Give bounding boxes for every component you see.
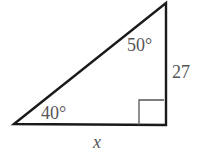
right-triangle-shape bbox=[14, 3, 166, 125]
side-label-horizontal: x bbox=[92, 132, 101, 152]
side-label-vertical: 27 bbox=[172, 62, 190, 82]
angle-label-bottom-left: 40° bbox=[41, 103, 66, 123]
triangle-diagram: 50° 27 40° x bbox=[0, 0, 204, 158]
triangle-svg: 50° 27 40° x bbox=[0, 0, 204, 158]
right-angle-marker-icon bbox=[139, 100, 164, 125]
angle-label-top: 50° bbox=[127, 35, 152, 55]
